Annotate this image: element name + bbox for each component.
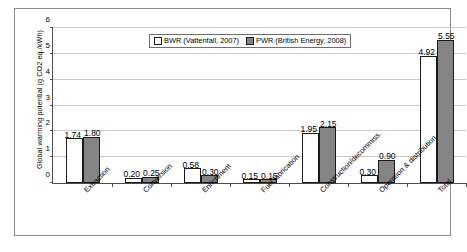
y-axis-tick-label: 4 xyxy=(46,68,50,76)
legend-label: PWR (British Energy, 2008) xyxy=(256,37,346,44)
bar-value-label: 2.15 xyxy=(320,120,337,129)
bar: 0.58 xyxy=(184,168,201,183)
bar: 4.92 xyxy=(420,56,437,183)
bar-group: 1.741.80 xyxy=(53,28,112,183)
bar-value-label: 1.74 xyxy=(64,131,81,140)
x-axis-tick-mark xyxy=(112,183,113,187)
y-axis-tick-label: 3 xyxy=(46,94,50,102)
bar-value-label: 0.20 xyxy=(123,170,140,179)
x-axis-tick-mark xyxy=(171,183,172,187)
legend-label: BWR (Vattenfall, 2007) xyxy=(164,37,239,44)
x-axis-tick-mark xyxy=(348,183,349,187)
y-axis-tick-label: 0 xyxy=(46,171,50,179)
legend-swatch xyxy=(154,37,162,45)
legend-item: BWR (Vattenfall, 2007) xyxy=(154,37,239,45)
bar-value-label: 5.55 xyxy=(438,32,455,41)
chart-frame: Global warming potential (g CO2 eq./kWh)… xyxy=(14,8,451,236)
legend-item: PWR (British Energy, 2008) xyxy=(246,37,346,45)
y-axis-tick-label: 6 xyxy=(46,16,50,24)
y-axis-tick-label: 5 xyxy=(46,42,50,50)
bar-value-label: 1.80 xyxy=(84,129,101,138)
bar-value-label: 0.90 xyxy=(379,152,396,161)
bar: 0.15 xyxy=(243,179,260,183)
x-axis-tick-mark xyxy=(289,183,290,187)
chart-legend: BWR (Vattenfall, 2007)PWR (British Energ… xyxy=(149,34,351,48)
bar-value-label: 0.15 xyxy=(241,172,258,181)
bar: 0.20 xyxy=(125,178,142,183)
bar-group: 0.200.25 xyxy=(112,28,171,183)
legend-swatch xyxy=(246,37,254,45)
x-axis-tick-mark xyxy=(230,183,231,187)
y-axis-tick-label: 2 xyxy=(46,119,50,127)
x-axis-tick-mark xyxy=(407,183,408,187)
bar: 0.30 xyxy=(361,175,378,183)
bar-group: 0.150.15 xyxy=(230,28,289,183)
y-axis-tick-label: 1 xyxy=(46,145,50,153)
bar-value-label: 4.92 xyxy=(418,48,435,57)
bar-value-label: 0.30 xyxy=(359,168,376,177)
bar: 5.55 xyxy=(437,40,454,183)
bar-value-label: 0.58 xyxy=(182,161,199,170)
bar: 1.95 xyxy=(302,133,319,183)
bar-value-label: 1.95 xyxy=(300,125,317,134)
y-axis-title: Global warming potential (g CO2 eq./kWh) xyxy=(35,20,44,180)
bar-group: 0.580.30 xyxy=(171,28,230,183)
bar: 1.74 xyxy=(66,138,83,183)
